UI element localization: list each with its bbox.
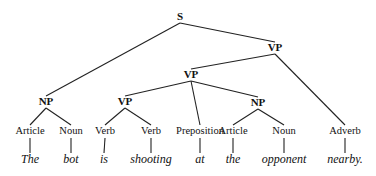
word-leaf-w4: shooting (130, 152, 171, 166)
phrase-node-vp3: VP (118, 95, 133, 107)
phrase-node-vp2: VP (184, 68, 199, 80)
word-leaf-w8: nearby. (327, 152, 363, 166)
tree-edge-np1-art1 (30, 108, 46, 125)
tree-edge-np2-noun2 (258, 109, 284, 125)
tree-edge-vp3-verb2 (125, 108, 151, 125)
tree-edge-vp2-np2 (191, 81, 258, 97)
tree-edge-vp3-verb1 (105, 108, 125, 125)
tree-edge-vp1-vp2 (191, 54, 275, 69)
word-leaf-w6: the (226, 152, 241, 166)
word-leaf-w1: The (21, 152, 40, 166)
tree-edge-s-vp1 (180, 23, 275, 42)
pos-node-art1: Article (15, 125, 44, 136)
phrase-node-np2: NP (251, 96, 266, 108)
tree-edge-verb1-w3 (104, 138, 105, 153)
pos-node-art2: Article (218, 125, 247, 136)
tree-edge-vp2-prep (191, 81, 200, 125)
phrase-node-s: S (177, 10, 183, 22)
pos-node-adv: Adverb (329, 125, 361, 136)
word-leaf-w7: opponent (262, 152, 307, 166)
tree-edge-np2-art2 (233, 109, 258, 125)
pos-node-noun1: Noun (59, 125, 83, 136)
pos-node-prep: Preposition (176, 125, 225, 136)
parse-tree-svg: SVPVPNPVPNPArticleNounVerbVerbPrepositio… (0, 0, 376, 176)
pos-node-noun2: Noun (272, 125, 296, 136)
phrase-node-np1: NP (39, 95, 54, 107)
pos-node-verb2: Verb (141, 125, 161, 136)
pos-node-verb1: Verb (95, 125, 115, 136)
word-leaf-w5: at (195, 152, 205, 166)
phrase-node-vp1: VP (268, 41, 283, 53)
word-leaf-w3: is (100, 152, 108, 166)
tree-edge-vp1-adv (275, 54, 345, 125)
tree-edge-vp2-vp3 (125, 81, 191, 96)
parse-tree-diagram: SVPVPNPVPNPArticleNounVerbVerbPrepositio… (0, 0, 376, 176)
tree-edge-np1-noun1 (46, 108, 71, 125)
tree-edge-s-np1 (46, 23, 180, 96)
word-leaf-w2: bot (63, 152, 79, 166)
